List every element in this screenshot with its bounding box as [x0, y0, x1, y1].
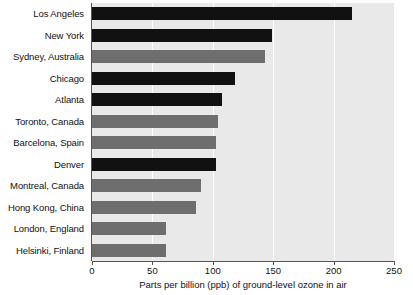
category-label: Sydney, Australia [0, 46, 88, 68]
x-tick-label: 0 [89, 266, 94, 276]
category-label: London, England [0, 218, 88, 240]
bar-row [92, 154, 394, 176]
category-label: Barcelona, Spain [0, 132, 88, 154]
bar-row [92, 46, 394, 68]
bar [92, 29, 272, 42]
bar [92, 50, 265, 63]
bar-row [92, 175, 394, 197]
ozone-bar-chart: Los Angeles New York Sydney, Australia C… [0, 0, 413, 295]
bar-row [92, 197, 394, 219]
category-label: Montreal, Canada [0, 175, 88, 197]
x-tick-label: 150 [265, 266, 281, 276]
bar [92, 136, 216, 149]
bar-row [92, 3, 394, 25]
x-axis-line [92, 261, 394, 262]
bar [92, 7, 352, 20]
category-label: Hong Kong, China [0, 197, 88, 219]
bar-series [92, 3, 394, 261]
bar [92, 72, 235, 85]
x-tick-label: 50 [147, 266, 158, 276]
category-label: Denver [0, 154, 88, 176]
x-tick-label: 250 [386, 266, 402, 276]
y-axis-line [91, 3, 92, 261]
bar [92, 179, 201, 192]
gridline [394, 3, 395, 261]
bar-row [92, 240, 394, 262]
category-label: Helsinki, Finland [0, 240, 88, 262]
bar [92, 244, 166, 257]
bar-row [92, 25, 394, 47]
bar-row [92, 68, 394, 90]
category-axis-labels: Los Angeles New York Sydney, Australia C… [0, 3, 88, 261]
x-tick-label: 100 [205, 266, 221, 276]
category-label: Los Angeles [0, 3, 88, 25]
bar [92, 201, 196, 214]
bar-row [92, 132, 394, 154]
bar [92, 158, 216, 171]
plot-area [92, 3, 394, 261]
bar-row [92, 89, 394, 111]
bar [92, 222, 166, 235]
category-label: New York [0, 25, 88, 47]
category-label: Atlanta [0, 89, 88, 111]
bar [92, 93, 222, 106]
category-label: Toronto, Canada [0, 111, 88, 133]
x-tick-label: 200 [326, 266, 342, 276]
bar-row [92, 111, 394, 133]
x-axis-title: Parts per billion (ppb) of ground-level … [92, 280, 394, 290]
category-label: Chicago [0, 68, 88, 90]
bar-row [92, 218, 394, 240]
bar [92, 115, 218, 128]
